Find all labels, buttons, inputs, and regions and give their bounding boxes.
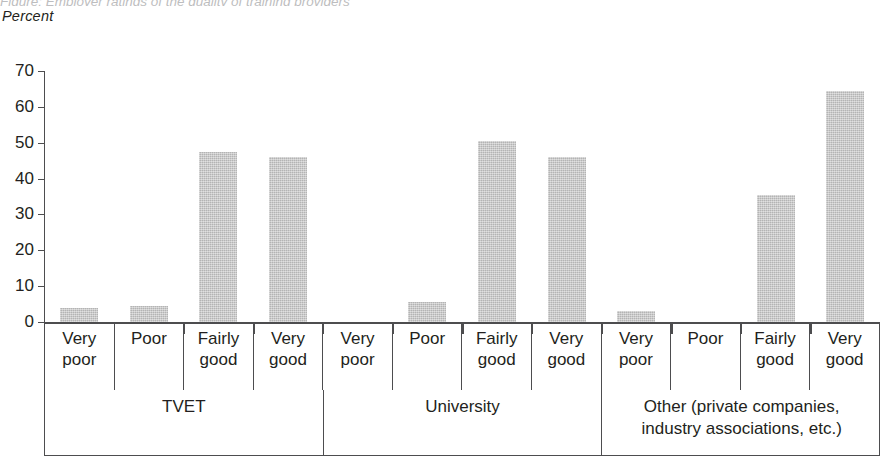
group-cell: University	[324, 390, 603, 456]
category-cell: Very poor	[602, 324, 672, 390]
y-tick-label: 40	[2, 170, 34, 187]
category-label: Poor	[409, 328, 445, 349]
bar	[408, 302, 446, 322]
y-tick-label: 0	[2, 313, 34, 330]
category-label: Poor	[688, 328, 724, 349]
category-cell: Very good	[532, 324, 602, 390]
category-label: Fairly good	[476, 328, 518, 370]
category-label: Very good	[269, 328, 307, 370]
bar	[269, 157, 307, 322]
figure-container: Figure: Employer ratings of the quality …	[0, 0, 882, 458]
bar	[617, 311, 655, 322]
axis-unit-label: Percent	[2, 8, 53, 24]
bar	[757, 195, 795, 322]
bar	[478, 141, 516, 322]
group-label: University	[425, 396, 500, 418]
category-cell: Very good	[254, 324, 324, 390]
category-label: Very good	[826, 328, 864, 370]
figure-title-cutoff: Figure: Employer ratings of the quality …	[0, 0, 882, 6]
y-tick-label: 60	[2, 98, 34, 115]
y-tick-label: 70	[2, 62, 34, 79]
y-tick-label: 50	[2, 134, 34, 151]
category-cell: Very good	[810, 324, 879, 390]
category-label: Fairly good	[198, 328, 240, 370]
y-tick-label: 30	[2, 205, 34, 222]
category-cell: Poor	[115, 324, 185, 390]
category-cell: Fairly good	[184, 324, 254, 390]
bar	[60, 308, 98, 322]
axis-label-table: Very poorPoorFairly goodVery goodVery po…	[44, 324, 880, 456]
bar	[199, 152, 237, 322]
y-tick-label: 20	[2, 241, 34, 258]
category-cell: Fairly good	[462, 324, 532, 390]
bar	[548, 157, 586, 322]
category-cell: Poor	[393, 324, 463, 390]
bar	[130, 306, 168, 322]
group-label-row: TVETUniversityOther (private companies, …	[44, 390, 880, 457]
category-label: Very poor	[619, 328, 653, 370]
category-cell: Poor	[671, 324, 741, 390]
group-cell: Other (private companies, industry assoc…	[602, 390, 881, 456]
bar	[826, 91, 864, 322]
category-label: Poor	[131, 328, 167, 349]
y-tick-label: 10	[2, 277, 34, 294]
category-label: Fairly good	[754, 328, 796, 370]
group-label: Other (private companies, industry assoc…	[641, 396, 841, 440]
group-cell: TVET	[45, 390, 324, 456]
category-label: Very poor	[341, 328, 375, 370]
bars-layer	[44, 71, 880, 322]
category-cell: Fairly good	[741, 324, 811, 390]
category-cell: Very poor	[45, 324, 115, 390]
category-label: Very good	[547, 328, 585, 370]
category-label: Very poor	[62, 328, 96, 370]
y-tick-0	[38, 322, 45, 323]
category-label-row: Very poorPoorFairly goodVery goodVery po…	[44, 324, 880, 390]
category-cell: Very poor	[323, 324, 393, 390]
group-label: TVET	[162, 396, 205, 418]
